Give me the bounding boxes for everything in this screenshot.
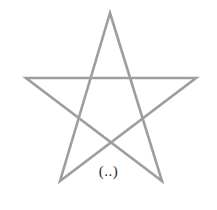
pentagram-figure: (..)	[0, 0, 217, 210]
pentagram-star-path	[26, 13, 196, 181]
figure-caption: (..)	[0, 164, 217, 179]
